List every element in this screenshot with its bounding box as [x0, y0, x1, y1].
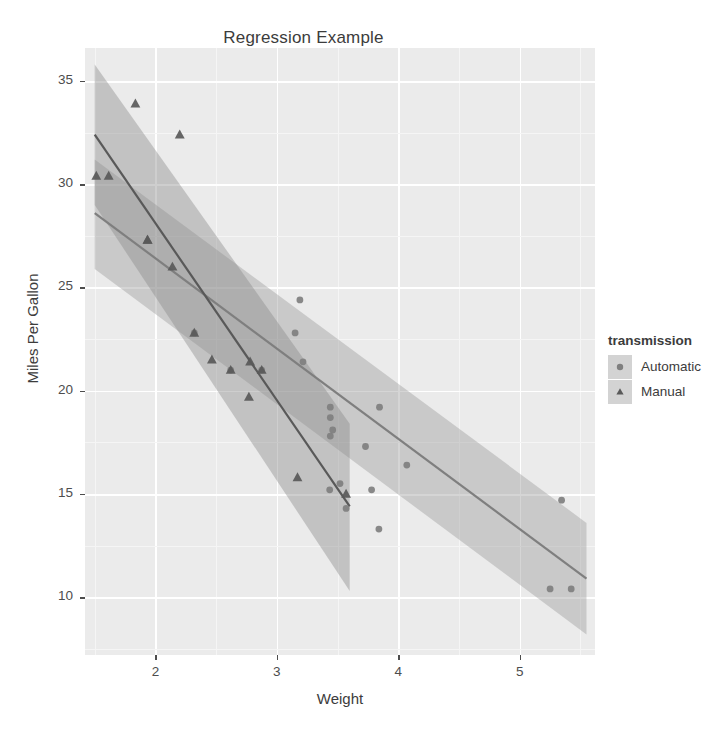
y-tick-label: 15: [33, 485, 73, 500]
y-tick-mark: [80, 287, 85, 288]
legend-key-manual: [608, 380, 632, 404]
x-tick-label: 2: [135, 664, 175, 679]
x-tick-label: 3: [257, 664, 297, 679]
triangle-marker-icon: [608, 380, 632, 404]
chart-root: Regression Example Weight Miles Per Gall…: [0, 0, 727, 750]
y-tick-mark: [80, 494, 85, 495]
y-tick-label: 25: [33, 278, 73, 293]
y-tick-mark: [80, 597, 85, 598]
circle-marker-icon: [608, 355, 632, 379]
data-point-automatic: [337, 480, 344, 487]
x-axis-title: Weight: [85, 690, 595, 707]
data-point-automatic: [558, 497, 565, 504]
y-tick-label: 30: [33, 175, 73, 190]
x-tick-mark: [398, 655, 399, 660]
data-point-automatic: [368, 486, 375, 493]
x-tick-mark: [277, 655, 278, 660]
legend: transmission Automatic Manual: [608, 333, 727, 404]
y-tick-label: 35: [33, 72, 73, 87]
data-point-automatic: [297, 297, 304, 304]
legend-label-automatic: Automatic: [641, 359, 701, 374]
data-point-automatic: [329, 427, 336, 434]
legend-item-manual[interactable]: Manual: [608, 379, 727, 404]
plot-panel: [85, 48, 595, 655]
x-tick-label: 4: [378, 664, 418, 679]
data-point-automatic: [300, 358, 307, 365]
data-point-automatic: [403, 462, 410, 469]
plot-area: [85, 48, 595, 655]
data-point-automatic: [568, 586, 575, 593]
y-axis-title: Miles Per Gallon: [24, 229, 41, 429]
data-point-automatic: [376, 526, 383, 533]
legend-item-automatic[interactable]: Automatic: [608, 354, 727, 379]
x-tick-mark: [155, 655, 156, 660]
data-point-automatic: [343, 505, 350, 512]
data-point-automatic: [362, 443, 369, 450]
y-tick-label: 20: [33, 382, 73, 397]
data-point-automatic: [327, 404, 334, 411]
data-point-automatic: [327, 433, 334, 440]
chart-title: Regression Example: [0, 28, 607, 48]
data-point-manual: [175, 130, 185, 139]
data-point-automatic: [327, 414, 334, 421]
legend-title: transmission: [608, 333, 727, 348]
x-tick-label: 5: [500, 664, 540, 679]
data-point-automatic: [547, 586, 554, 593]
data-point-automatic: [292, 330, 299, 337]
data-point-manual: [131, 99, 141, 108]
y-tick-mark: [80, 184, 85, 185]
y-tick-mark: [80, 81, 85, 82]
data-point-automatic: [376, 404, 383, 411]
y-tick-mark: [80, 391, 85, 392]
data-point-automatic: [326, 486, 333, 493]
x-tick-mark: [520, 655, 521, 660]
legend-label-manual: Manual: [641, 384, 685, 399]
legend-key-automatic: [608, 355, 632, 379]
y-tick-label: 10: [33, 588, 73, 603]
